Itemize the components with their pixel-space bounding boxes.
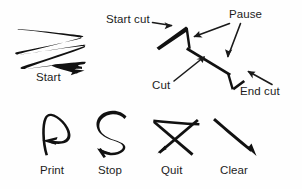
start-cut-leader bbox=[153, 22, 173, 29]
end-cut-leader bbox=[247, 71, 272, 85]
label-start: Start bbox=[36, 72, 61, 84]
label-end-cut: End cut bbox=[240, 86, 280, 98]
label-pause: Pause bbox=[229, 9, 262, 21]
label-print: Print bbox=[40, 165, 64, 177]
gesture-reference-figure: Start Start cut Pause Cut End cut Print … bbox=[0, 0, 302, 189]
label-clear: Clear bbox=[220, 165, 248, 177]
label-start-cut: Start cut bbox=[106, 14, 150, 26]
cut-leader bbox=[174, 56, 205, 81]
label-cut: Cut bbox=[152, 80, 170, 92]
pause-leader-right bbox=[225, 24, 241, 58]
stop-gesture-stroke bbox=[96, 111, 126, 158]
pause-leader-left bbox=[193, 24, 229, 38]
label-stop: Stop bbox=[98, 165, 122, 177]
clear-gesture-stroke bbox=[213, 118, 257, 156]
quit-gesture-stroke bbox=[153, 119, 200, 156]
print-gesture-stroke bbox=[42, 114, 70, 156]
label-quit: Quit bbox=[161, 165, 183, 177]
start-gesture-stroke bbox=[15, 29, 86, 75]
